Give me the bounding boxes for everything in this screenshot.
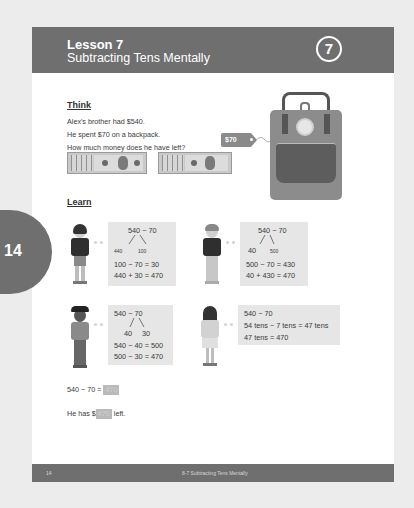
lesson-title: Subtracting Tens Mentally xyxy=(67,51,210,65)
think-line: He spent $70 on a backpack. xyxy=(67,128,185,141)
sentence-prefix: He has $ xyxy=(67,409,96,418)
number-bond-lines xyxy=(122,317,152,329)
footer-title: 8-7 Subtracting Tens Mentally xyxy=(182,470,248,476)
thought-dots-icon xyxy=(226,241,236,245)
textbook-page: Lesson 7 Subtracting Tens Mentally 7 Thi… xyxy=(32,27,394,482)
equation-answer-box[interactable]: 470 xyxy=(103,385,119,395)
money-bills-icon xyxy=(67,152,147,174)
money-bills-icon xyxy=(158,152,232,174)
student-girl-icon xyxy=(200,307,220,367)
student-boy-icon xyxy=(70,309,90,369)
student-girl-icon xyxy=(70,225,90,285)
answer-equation: 540 − 70 = 470 xyxy=(67,385,119,395)
answer-sentence: He has $470 left. xyxy=(67,409,125,419)
lesson-header: Lesson 7 Subtracting Tens Mentally 7 xyxy=(32,27,394,73)
method-box-4: 540 − 70 54 tens − 7 tens = 47 tens 47 t… xyxy=(238,305,340,345)
sentence-answer-box[interactable]: 470 xyxy=(96,409,112,419)
page-number-tab-label: 14 xyxy=(4,242,22,260)
method-box-3: 540 − 70 40 30 540 − 40 = 500 500 − 30 =… xyxy=(108,305,173,365)
backpack-icon xyxy=(270,92,342,202)
equation-prefix: 540 − 70 = xyxy=(67,385,101,394)
number-bond-lines xyxy=(122,234,152,246)
thought-dots-icon xyxy=(94,323,104,327)
student-girl-icon xyxy=(202,225,222,285)
lesson-number: Lesson 7 xyxy=(67,37,123,52)
page-footer: 14 8-7 Subtracting Tens Mentally xyxy=(32,464,394,482)
lesson-number-circle: 7 xyxy=(316,36,342,62)
price-tag: $70 xyxy=(221,133,251,147)
think-problem: Alex's brother had $540. He spent $70 on… xyxy=(67,115,185,154)
thought-dots-icon xyxy=(94,241,104,245)
thought-dots-icon xyxy=(224,323,234,327)
think-heading: Think xyxy=(67,100,91,110)
method-box-1: 540 − 70 440 100 100 − 70 = 30 440 + 30 … xyxy=(108,222,176,286)
footer-page-number: 14 xyxy=(46,470,52,476)
number-bond-lines xyxy=(252,234,282,246)
think-line: Alex's brother had $540. xyxy=(67,115,185,128)
sentence-suffix: left. xyxy=(114,409,126,418)
method-box-2: 540 − 70 40 500 500 − 70 = 430 40 + 430 … xyxy=(240,222,308,286)
learn-heading: Learn xyxy=(67,197,92,207)
price-tag-label: $70 xyxy=(225,136,237,143)
